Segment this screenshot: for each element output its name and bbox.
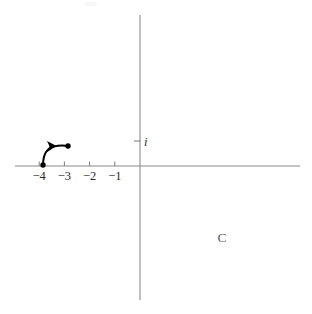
x-tick-marks-group [39, 162, 115, 167]
x-tick-label: −4 [33, 169, 47, 183]
imaginary-unit-label: i [144, 135, 148, 149]
contour-curve-group [40, 141, 70, 168]
x-tick-label: −3 [58, 169, 71, 183]
curve-label-c: C [217, 230, 226, 245]
x-tick-label: −2 [83, 169, 96, 183]
contour-end-dot [65, 143, 70, 148]
contour-start-dot [40, 162, 45, 167]
axes-group [15, 15, 300, 300]
direction-arrowhead [46, 141, 56, 153]
figure-container: −4 −3 −2 −1 i C [0, 0, 312, 314]
x-tick-labels-group: −4 −3 −2 −1 [33, 169, 122, 183]
x-tick-label: −1 [108, 169, 121, 183]
complex-plane-figure: −4 −3 −2 −1 i C [0, 0, 312, 314]
